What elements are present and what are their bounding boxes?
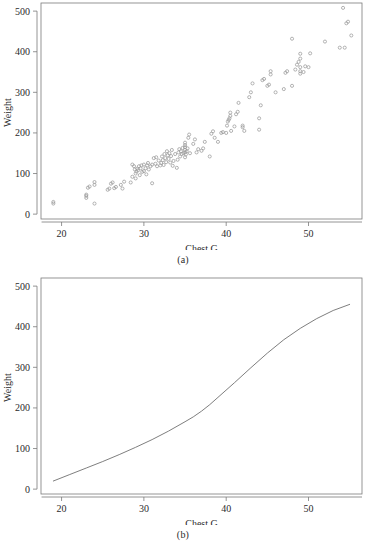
- y-tick-label: 100: [15, 443, 30, 454]
- y-tick-label: 500: [15, 281, 30, 292]
- x-tick-label: 40: [221, 503, 231, 514]
- scatter-point: [258, 128, 261, 131]
- x-axis-title: Chest.G: [185, 243, 218, 250]
- scatter-point: [269, 70, 272, 73]
- scatter-point: [342, 6, 345, 9]
- scatter-point: [229, 111, 232, 114]
- scatter-point: [233, 125, 236, 128]
- y-tick-label: 200: [15, 127, 30, 138]
- scatter-point: [169, 161, 172, 164]
- scatter-point: [302, 70, 305, 73]
- y-tick-label: 400: [15, 321, 30, 332]
- scatter-point: [208, 155, 211, 158]
- scatter-point: [249, 91, 252, 94]
- scatter-point: [236, 110, 239, 113]
- scatter-point: [121, 187, 124, 190]
- y-axis-title: Weight: [2, 373, 13, 402]
- scatter-point: [350, 34, 353, 37]
- x-tick-label: 50: [304, 228, 314, 239]
- scatter-point: [119, 183, 122, 186]
- scatter-point: [162, 163, 165, 166]
- scatter-point: [216, 140, 219, 143]
- y-tick-label: 0: [25, 209, 30, 220]
- fitted-curve: [53, 304, 349, 481]
- scatter-point: [129, 181, 132, 184]
- scatter-point: [151, 182, 154, 185]
- scatter-point: [248, 96, 251, 99]
- scatter-point: [282, 88, 285, 91]
- y-tick-label: 0: [25, 484, 30, 495]
- scatter-point: [225, 131, 228, 134]
- scatter-point: [192, 142, 195, 145]
- y-tick-label: 100: [15, 168, 30, 179]
- scatter-point: [269, 73, 272, 76]
- scatter-point: [165, 161, 168, 164]
- scatter-point: [213, 136, 216, 139]
- x-tick-label: 30: [139, 228, 149, 239]
- scatter-point: [225, 124, 228, 127]
- line-plot-weight-vs-chestg: 20304050Chest.G0100200300400500Weight: [0, 275, 366, 525]
- x-tick-label: 20: [57, 228, 67, 239]
- scatter-point: [131, 175, 134, 178]
- scatter-point: [170, 155, 173, 158]
- scatter-point: [172, 159, 175, 162]
- scatter-point: [174, 152, 177, 155]
- scatter-point: [338, 46, 341, 49]
- scatter-point: [145, 173, 148, 176]
- scatter-point: [167, 157, 170, 160]
- scatter-point: [176, 158, 179, 161]
- scatter-point: [304, 65, 307, 68]
- scatter-point: [251, 82, 254, 85]
- scatter-point: [188, 152, 191, 155]
- scatter-point: [230, 129, 233, 132]
- scatter-point: [211, 130, 214, 133]
- scatter-point: [299, 57, 302, 60]
- figure-panel-a: 20304050Chest.G0100200300400500Weight: [0, 0, 366, 275]
- scatter-point: [258, 117, 261, 120]
- scatter-point: [160, 155, 163, 158]
- y-axis-title: Weight: [2, 98, 13, 127]
- scatter-point: [123, 180, 126, 183]
- x-tick-label: 50: [304, 503, 314, 514]
- y-tick-label: 300: [15, 87, 30, 98]
- y-tick-label: 300: [15, 362, 30, 373]
- scatter-point: [297, 60, 300, 63]
- y-tick-label: 400: [15, 46, 30, 57]
- scatter-point: [243, 129, 246, 132]
- scatter-point: [195, 151, 198, 154]
- y-tick-label: 500: [15, 6, 30, 17]
- scatter-point: [323, 40, 326, 43]
- scatter-point: [203, 140, 206, 143]
- scatter-point-group: [52, 6, 353, 205]
- scatter-point: [93, 202, 96, 205]
- scatter-point: [156, 165, 159, 168]
- scatter-point: [163, 152, 166, 155]
- plot-frame: [41, 278, 362, 494]
- scatter-point: [171, 164, 174, 167]
- scatter-point: [309, 52, 312, 55]
- scatter-point: [175, 166, 178, 169]
- scatter-point: [147, 168, 150, 171]
- scatter-point: [188, 133, 191, 136]
- scatter-point: [237, 101, 240, 104]
- scatter-point: [307, 66, 310, 69]
- scatter-point: [134, 177, 137, 180]
- panel-b-caption: (b): [0, 529, 366, 540]
- y-tick-label: 200: [15, 402, 30, 413]
- scatter-point: [197, 148, 200, 151]
- scatter-point: [202, 147, 205, 150]
- scatter-point: [193, 138, 196, 141]
- scatter-point: [290, 37, 293, 40]
- scatter-point: [294, 68, 297, 71]
- scatter-point: [164, 157, 167, 160]
- scatter-point: [187, 136, 190, 139]
- figure-panel-b: 20304050Chest.G0100200300400500Weight: [0, 275, 366, 549]
- scatter-point: [259, 104, 262, 107]
- x-tick-label: 30: [139, 503, 149, 514]
- x-tick-label: 20: [57, 503, 67, 514]
- scatter-point: [290, 84, 293, 87]
- scatter-point: [138, 174, 141, 177]
- scatter-point: [343, 46, 346, 49]
- scatter-point: [170, 148, 173, 151]
- scatter-plot-weight-vs-chestg: 20304050Chest.G0100200300400500Weight: [0, 0, 366, 250]
